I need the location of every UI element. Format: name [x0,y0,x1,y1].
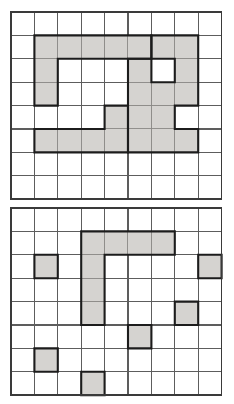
shaded-cell [175,82,198,105]
shaded-cell [34,255,57,278]
shaded-cell [105,35,128,58]
shaded-cell [151,129,174,152]
shaded-cell [58,35,81,58]
shaded-cell [128,129,151,152]
shaded-cell [105,129,128,152]
shaded-cell [175,302,198,325]
upper-grid-panel [8,9,225,202]
shaded-cell [105,231,128,254]
shaded-cell [151,82,174,105]
shaded-cell [175,129,198,152]
shaded-cell [58,129,81,152]
shaded-cell [34,82,57,105]
shaded-cell [175,35,198,58]
shaded-cell [81,231,104,254]
lower-grid-panel-svg [8,205,225,398]
shaded-cell [81,129,104,152]
shaded-cell [128,59,151,82]
shaded-cell [105,106,128,129]
upper-grid-panel-svg [8,9,225,202]
shaded-cell [128,35,151,58]
shaded-cell [81,278,104,301]
shaded-cell [128,82,151,105]
shaded-cell [34,129,57,152]
shaded-cell [151,106,174,129]
shaded-cell [175,59,198,82]
figure-root: Two square-grid puzzle diagrams [0,0,234,404]
shaded-cell [34,35,57,58]
shaded-cell [81,255,104,278]
shaded-cells-layer [34,35,198,152]
shaded-cell [81,372,104,395]
shaded-cell [151,35,174,58]
shaded-cell [198,255,221,278]
shaded-cell [34,348,57,371]
shaded-cell [128,106,151,129]
shaded-cell [151,231,174,254]
lower-grid-panel [8,205,225,398]
shaded-cell [128,325,151,348]
shaded-cell [34,59,57,82]
shaded-cell [128,231,151,254]
shaded-cell [81,302,104,325]
shaded-cell [81,35,104,58]
